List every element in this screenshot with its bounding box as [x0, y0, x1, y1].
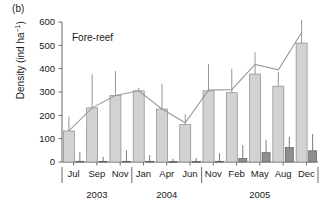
x-category-label: Apr	[159, 168, 174, 179]
y-tick-label: 0	[50, 156, 55, 167]
year-label: 2003	[86, 189, 107, 200]
plot-annotation: Fore-reef	[72, 32, 113, 43]
bar-dark	[192, 162, 200, 163]
x-category-label: Nov	[112, 168, 129, 179]
bar-light	[156, 109, 167, 162]
bar-light	[110, 96, 121, 163]
bar-dark	[262, 153, 270, 162]
x-category-label: Feb	[228, 168, 244, 179]
year-label: 2005	[249, 189, 270, 200]
bar-dark	[146, 161, 154, 162]
bar-light	[180, 125, 191, 162]
x-axis	[62, 162, 318, 166]
bar-dark	[309, 151, 317, 162]
x-category-label: Jan	[136, 168, 151, 179]
year-label: 2004	[156, 189, 177, 200]
bar-dark	[169, 162, 177, 163]
y-tick-label: 500	[39, 40, 55, 51]
bar-dark	[239, 159, 247, 163]
x-tick-labels: JulSepNovJanAprJunNovFebMayAugDec	[68, 168, 315, 179]
bar-light	[250, 74, 261, 162]
x-category-label: Dec	[298, 168, 315, 179]
y-tick-label: 300	[39, 86, 55, 97]
y-tick-label: 200	[39, 110, 55, 121]
y-axis: 0100200300400500600	[39, 16, 62, 167]
bar-dark	[122, 161, 130, 162]
x-category-label: May	[251, 168, 269, 179]
x-category-label: Jun	[182, 168, 197, 179]
y-tick-label: 100	[39, 133, 55, 144]
x-category-label: Jul	[68, 168, 80, 179]
x-category-label: Nov	[205, 168, 222, 179]
bar-dark	[216, 161, 224, 162]
x-category-label: Aug	[275, 168, 292, 179]
chart-canvas: 0100200300400500600 JulSepNovJanAprJunNo…	[0, 0, 330, 208]
figure-panel: (b) Density (ind ha−1) 01002003004005006…	[0, 0, 330, 208]
bar-dark	[99, 161, 107, 162]
bar-light	[296, 43, 307, 162]
bar-light	[63, 131, 74, 162]
bar-light	[87, 108, 98, 162]
x-category-label: Sep	[88, 168, 105, 179]
bar-dark	[285, 148, 293, 162]
bar-light	[226, 93, 237, 162]
y-tick-label: 600	[39, 16, 55, 27]
bar-light	[273, 86, 284, 162]
y-tick-label: 400	[39, 63, 55, 74]
bar-dark	[76, 161, 84, 162]
bar-light	[203, 91, 214, 162]
bar-light	[133, 91, 144, 162]
